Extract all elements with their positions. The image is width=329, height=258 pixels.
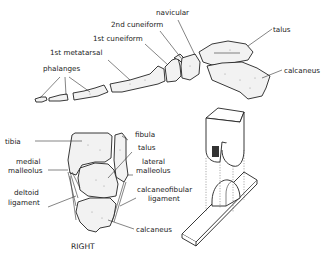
label-talus-foot: talus: [273, 25, 291, 34]
label-deltoid-1: deltoid: [14, 188, 39, 197]
label-fibula: fibula: [135, 130, 155, 139]
label-medial-2: malleolus: [8, 166, 43, 175]
label-2nd-cuneiform: 2nd cuneiform: [111, 20, 163, 29]
calcaneus-foot: [207, 62, 270, 99]
label-medial-1: medial: [16, 157, 40, 166]
label-1st-cuneiform: 1st cuneiform: [93, 34, 143, 43]
label-calcaneofibular-1: calcaneofibular: [137, 185, 192, 194]
first-metatarsal: [110, 66, 165, 92]
fibula: [114, 133, 128, 182]
label-talus-ankle: talus: [138, 143, 156, 152]
label-calcaneus-ankle: calcaneus: [136, 225, 172, 234]
calcaneus-ankle: [76, 198, 116, 232]
anatomy-diagram: navicular 2nd cuneiform 1st cuneiform 1s…: [0, 0, 329, 258]
navicular: [181, 54, 200, 80]
label-calcaneofibular-2: ligament: [148, 194, 180, 203]
model-shaded-region: [212, 146, 219, 157]
label-calcaneus-foot: calcaneus: [284, 66, 320, 75]
middle-phalanx: [49, 94, 68, 101]
label-lateral-2: malleolus: [136, 166, 171, 175]
label-phalanges: phalanges: [43, 64, 80, 73]
first-cuneiform: [165, 58, 181, 82]
ankle-joint-model: [182, 108, 257, 246]
ankle-skeleton: [68, 133, 128, 232]
diagram-canvas: navicular 2nd cuneiform 1st cuneiform 1s…: [0, 0, 329, 258]
label-tibia: tibia: [5, 137, 21, 146]
proximal-phalanx: [73, 85, 108, 100]
caption-right: RIGHT: [71, 242, 95, 251]
label-navicular: navicular: [156, 8, 189, 17]
label-deltoid-2: ligament: [8, 198, 40, 207]
label-1st-metatarsal: 1st metatarsal: [50, 48, 102, 57]
talus-ankle: [78, 163, 118, 198]
label-lateral-1: lateral: [142, 157, 165, 166]
distal-phalanx: [35, 97, 47, 102]
